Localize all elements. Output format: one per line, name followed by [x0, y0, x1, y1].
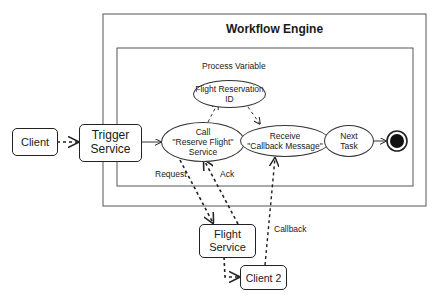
trigger-label-line2: Service [90, 143, 130, 157]
call-label-line1: Call [196, 127, 211, 137]
next-label-line2: Task [340, 141, 357, 151]
next-label-line1: Next [340, 131, 357, 141]
trigger-service-node: Trigger Service [79, 124, 142, 162]
receive-callback-node: Receive "Callback Message" [240, 125, 330, 157]
receive-label-line2: "Callback Message" [247, 141, 322, 151]
next-task-node: Next Task [324, 125, 374, 157]
end-node-inner [390, 134, 404, 148]
client2-node: Client 2 [240, 265, 287, 290]
edge-callback [265, 158, 275, 265]
flight-service-line1: Flight [214, 228, 241, 241]
flight-service-line2: Service [209, 241, 246, 254]
receive-label-line1: Receive [270, 131, 301, 141]
reservation-label-line2: ID [225, 94, 234, 104]
client-node: Client [12, 128, 58, 156]
request-label: Request [155, 170, 187, 180]
flight-service-node: Flight Service [199, 224, 256, 258]
callback-label: Callback [274, 225, 307, 235]
call-label-line2: "Reserve Flight" [173, 137, 234, 147]
flight-reservation-id-node: Flight Reservation ID [193, 80, 266, 108]
client-label: Client [21, 136, 49, 148]
reservation-label-line1: Flight Reservation [195, 84, 264, 94]
workflow-engine-title: Workflow Engine [226, 23, 323, 37]
process-variable-label: Process Variable [202, 62, 266, 72]
edge-flight-client2 [224, 257, 239, 277]
workflow-engine-frame [103, 14, 426, 206]
ack-label: Ack [220, 170, 234, 180]
edge-variable-receive [248, 107, 260, 124]
call-reserve-flight-node: Call "Reserve Flight" Service [161, 122, 245, 162]
client2-label: Client 2 [246, 272, 282, 284]
call-label-line3: Service [189, 147, 217, 157]
trigger-label-line1: Trigger [92, 129, 130, 143]
